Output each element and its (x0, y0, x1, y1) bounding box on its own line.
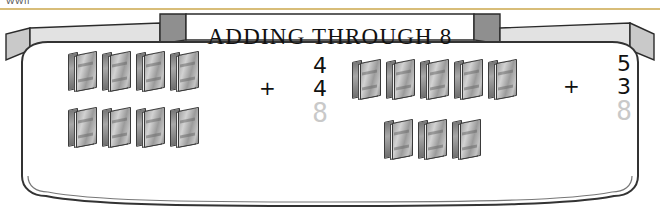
plus-operator: + (563, 75, 581, 98)
addend-2-row: + 3 (580, 75, 632, 98)
addend-2: 4 (313, 76, 328, 101)
problem-left: 4 + 4 8 (68, 48, 338, 198)
book-group-right-row2 (384, 122, 480, 160)
addend-2-row: + 4 (276, 77, 328, 100)
book-icon (352, 62, 380, 100)
book-icon (384, 122, 412, 160)
equation-right: 5 + 3 8 (580, 52, 632, 124)
book-icon (102, 110, 130, 148)
addend-2: 3 (617, 74, 632, 99)
book-group-right-row1 (352, 62, 516, 100)
book-icon (102, 54, 130, 92)
equation-left: 4 + 4 8 (276, 54, 328, 126)
book-icon (386, 62, 414, 100)
book-icon (136, 54, 164, 92)
problem-right: 5 + 3 8 (352, 48, 638, 198)
book-icon (420, 62, 448, 100)
answer-faint: 8 (580, 98, 632, 124)
cropped-header-text: WWII (6, 0, 30, 4)
book-icon (170, 110, 198, 148)
book-icon (452, 122, 480, 160)
book-icon (488, 62, 516, 100)
answer-faint: 8 (276, 100, 328, 126)
book-group-left-row1 (68, 54, 198, 92)
book-icon (418, 122, 446, 160)
worksheet-page: WWII ADDING THROUGH 8 (0, 0, 660, 222)
book-icon (454, 62, 482, 100)
page-title: ADDING THROUGH 8 (0, 24, 660, 50)
addend-1: 5 (580, 52, 632, 75)
addend-1: 4 (276, 54, 328, 77)
problems-area: 4 + 4 8 (22, 48, 638, 198)
book-icon (136, 110, 164, 148)
book-icon (68, 110, 96, 148)
book-icon (68, 54, 96, 92)
plus-operator: + (259, 77, 277, 100)
book-group-left-row2 (68, 110, 198, 148)
book-icon (170, 54, 198, 92)
